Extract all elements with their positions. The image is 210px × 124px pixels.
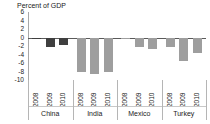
bar-slot — [193, 12, 202, 80]
bar-slot — [179, 12, 188, 80]
bar-mexico-2010[interactable] — [148, 38, 157, 50]
group-separator — [162, 80, 163, 120]
year-label: 2008 — [166, 81, 175, 107]
bar-slot — [59, 12, 68, 80]
year-label: 2010 — [104, 81, 113, 107]
y-tick-label: 6 — [20, 9, 24, 15]
country-label-mexico: Mexico — [117, 108, 162, 122]
bar-slot — [90, 12, 99, 80]
y-axis-tick-labels: 6420-2-4-6-8-10 — [0, 12, 26, 80]
bar-slot — [166, 12, 175, 80]
year-label-group: 200820092010 — [28, 81, 73, 108]
group-separator — [73, 80, 74, 120]
bar-india-2009[interactable] — [90, 38, 99, 75]
year-label: 2009 — [90, 81, 99, 107]
y-tick-label: -2 — [18, 43, 24, 49]
bar-slot — [32, 12, 41, 80]
y-tick-label: 0 — [20, 35, 24, 41]
bar-slot — [135, 12, 144, 80]
bar-groups — [28, 12, 206, 80]
year-label: 2009 — [179, 81, 188, 107]
bar-china-2008[interactable] — [32, 38, 41, 40]
year-label: 2009 — [135, 81, 144, 107]
plot-area — [28, 12, 206, 80]
bar-group-turkey — [162, 12, 207, 80]
year-label: 2008 — [121, 81, 130, 107]
year-label: 2010 — [193, 81, 202, 107]
country-label-india: India — [73, 108, 118, 122]
bar-china-2009[interactable] — [46, 38, 55, 47]
bar-group-china — [28, 12, 73, 80]
year-label: 2008 — [32, 81, 41, 107]
bar-turkey-2010[interactable] — [193, 38, 202, 53]
bar-india-2010[interactable] — [104, 38, 113, 73]
bar-india-2008[interactable] — [77, 38, 86, 72]
bar-group-india — [73, 12, 118, 80]
year-label: 2008 — [77, 81, 86, 107]
y-tick-label: -8 — [18, 69, 24, 75]
year-label-group: 200820092010 — [117, 81, 162, 108]
bar-slot — [104, 12, 113, 80]
chart-container: Percent of GDP 6420-2-4-6-8-10 200820092… — [0, 0, 210, 124]
y-tick-label: -6 — [18, 60, 24, 66]
bar-group-mexico — [117, 12, 162, 80]
bar-turkey-2008[interactable] — [166, 38, 175, 47]
y-tick-label: 4 — [20, 18, 24, 24]
y-tick-label: -10 — [15, 77, 24, 83]
country-label-turkey: Turkey — [162, 108, 207, 122]
y-tick-label: 2 — [20, 26, 24, 32]
bar-china-2010[interactable] — [59, 38, 68, 45]
country-label-china: China — [28, 108, 73, 122]
year-label: 2010 — [148, 81, 157, 107]
bar-slot — [77, 12, 86, 80]
group-separator — [28, 80, 29, 120]
bar-mexico-2009[interactable] — [135, 38, 144, 48]
bar-slot — [46, 12, 55, 80]
year-label-group: 200820092010 — [73, 81, 118, 108]
group-separator — [206, 80, 207, 120]
year-label: 2009 — [46, 81, 55, 107]
bar-slot — [148, 12, 157, 80]
year-label: 2010 — [59, 81, 68, 107]
y-tick-label: -4 — [18, 52, 24, 58]
bar-slot — [121, 12, 130, 80]
year-label-group: 200820092010 — [162, 81, 207, 108]
group-separator — [117, 80, 118, 120]
bar-turkey-2009[interactable] — [179, 38, 188, 61]
